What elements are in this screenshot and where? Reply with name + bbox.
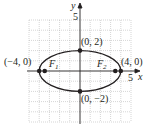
focus-2-subscript: 2 bbox=[103, 63, 107, 71]
y-tick-label: 5 bbox=[73, 12, 78, 22]
label-bottom-covertex: (0, −2) bbox=[81, 94, 108, 104]
x-tick-label: 5 bbox=[128, 73, 133, 83]
label-left-vertex: (−4, 0) bbox=[4, 57, 31, 67]
label-top-covertex: (0, 2) bbox=[81, 37, 103, 47]
focus-1-subscript: 1 bbox=[55, 63, 59, 71]
x-axis-label: x bbox=[138, 72, 142, 82]
label-right-vertex: (4, 0) bbox=[121, 57, 143, 67]
point-left-vertex bbox=[37, 69, 42, 74]
point-top-covertex bbox=[78, 48, 83, 53]
label-focus-1: F1 bbox=[49, 59, 59, 71]
y-axis-arrow-icon bbox=[78, 3, 82, 8]
point-focus-2 bbox=[113, 69, 118, 74]
point-right-vertex bbox=[119, 69, 124, 74]
y-axis-label: y bbox=[71, 1, 75, 11]
point-focus-1 bbox=[42, 69, 47, 74]
label-focus-2: F2 bbox=[97, 59, 107, 71]
